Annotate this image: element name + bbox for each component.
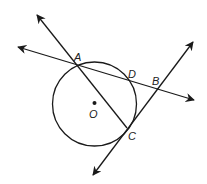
label-c: C [128,130,136,142]
line-cb-tangent [93,42,193,175]
label-o: O [89,108,98,120]
center-point-o [93,101,97,105]
line-ac [37,15,127,128]
label-a: A [73,51,81,63]
line-ab [18,47,194,100]
label-d: D [128,68,136,80]
geometry-diagram: A D B C O [0,0,207,184]
label-b: B [152,75,159,87]
